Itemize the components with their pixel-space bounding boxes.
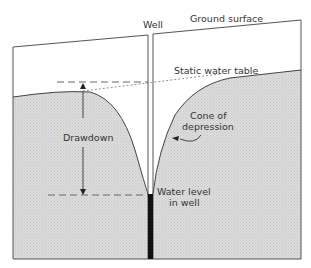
water-level-label-line1: Water level xyxy=(157,186,211,197)
static-water-table-label: Static water table xyxy=(174,65,258,76)
drawdown-arrowhead-up xyxy=(80,83,86,89)
well-water-column xyxy=(148,194,153,259)
cone-of-depression-diagram: Well Ground surface Static water table C… xyxy=(0,0,311,268)
saturated-zone-right xyxy=(153,70,301,259)
water-level-label-line2: in well xyxy=(169,197,200,208)
ground-surface-label: Ground surface xyxy=(190,13,263,24)
well-label: Well xyxy=(143,19,163,30)
drawdown-label: Drawdown xyxy=(63,132,113,143)
cone-label-line2: depression xyxy=(182,121,234,132)
cone-label-line1: Cone of xyxy=(190,110,227,121)
saturated-zone-left xyxy=(13,92,148,259)
